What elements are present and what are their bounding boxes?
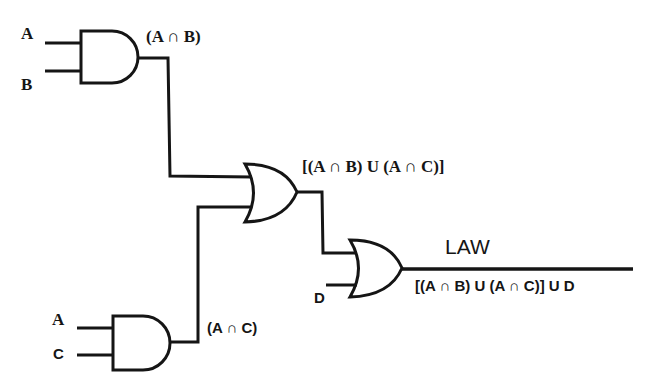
and1-output-wire — [138, 58, 252, 177]
logic-circuit-diagram: A B A C D (A ∩ B) (A ∩ C) [(A ∩ B) U (A … — [0, 0, 656, 385]
input-label-a1: A — [21, 25, 33, 42]
input-label-c: C — [53, 346, 64, 361]
input-label-a2: A — [52, 311, 64, 328]
circuit-wires-and-gates — [0, 0, 656, 385]
or1-output-label: [(A ∩ B) U (A ∩ C)] — [302, 158, 444, 175]
and2-output-label: (A ∩ C) — [207, 320, 257, 335]
input-label-b: B — [21, 76, 32, 93]
or2-gate-icon — [350, 240, 402, 297]
or2-output-label: [(A ∩ B) U (A ∩ C)] U D — [415, 278, 575, 293]
and2-gate-icon — [113, 316, 170, 370]
and1-output-label: (A ∩ B) — [146, 28, 201, 45]
or1-gate-icon — [245, 164, 297, 222]
or1-output-wire — [297, 192, 357, 253]
law-title: LAW — [445, 236, 490, 257]
and1-gate-icon — [81, 31, 138, 83]
input-label-d: D — [314, 290, 325, 305]
